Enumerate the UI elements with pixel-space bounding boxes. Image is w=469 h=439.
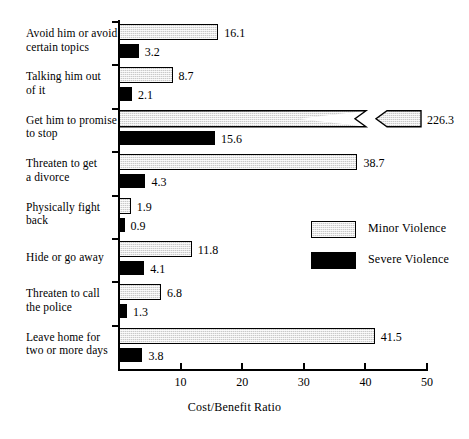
category-label-line: Hide or go away bbox=[26, 251, 118, 265]
bar-minor-violence bbox=[119, 198, 131, 214]
bar-minor-violence bbox=[119, 284, 161, 300]
category-label-line: the police bbox=[26, 301, 118, 315]
bar-value-label-severe-violence: 4.1 bbox=[150, 262, 165, 277]
category-label: Hide or go away bbox=[26, 251, 118, 265]
category-label-line: two or more days bbox=[26, 344, 118, 358]
bar-severe-violence bbox=[119, 304, 127, 318]
bar-value-label-minor-violence: 38.7 bbox=[363, 156, 384, 171]
x-axis-line bbox=[118, 369, 428, 371]
bar-value-label-minor-violence: 226.3 bbox=[427, 113, 454, 128]
category-label: Physically fightback bbox=[26, 201, 118, 228]
bar-value-label-severe-violence: 1.3 bbox=[133, 305, 148, 320]
category-label: Threaten to geta divorce bbox=[26, 157, 118, 184]
bar-severe-violence bbox=[119, 348, 142, 362]
y-axis-line bbox=[118, 20, 120, 370]
legend-label-minor-violence: Minor Violence bbox=[368, 221, 446, 236]
category-label-line: a divorce bbox=[26, 171, 118, 185]
cost-benefit-ratio-bar-chart: 1020304050Avoid him or avoidcertain topi… bbox=[0, 0, 469, 439]
minor-violence-swatch bbox=[311, 221, 356, 238]
bar-value-label-severe-violence: 3.8 bbox=[148, 349, 163, 364]
bar-value-label-minor-violence: 11.8 bbox=[198, 243, 219, 258]
bar-minor-violence bbox=[119, 154, 357, 170]
category-label-line: Physically fight bbox=[26, 201, 118, 215]
bar-value-label-minor-violence: 1.9 bbox=[137, 200, 152, 215]
category-label-line: Threaten to get bbox=[26, 157, 118, 171]
bar-minor-violence bbox=[119, 241, 192, 257]
bar-severe-violence bbox=[119, 261, 144, 275]
bar-severe-violence bbox=[119, 174, 145, 188]
x-axis-title: Cost/Benefit Ratio bbox=[0, 400, 469, 415]
severe-violence-swatch bbox=[311, 252, 356, 269]
category-label-line: Leave home for bbox=[26, 331, 118, 345]
bar-value-label-severe-violence: 0.9 bbox=[131, 219, 146, 234]
bar-minor-violence bbox=[119, 328, 375, 344]
bar-severe-violence bbox=[119, 131, 215, 145]
category-label-line: back bbox=[26, 214, 118, 228]
bar-value-label-severe-violence: 4.3 bbox=[151, 175, 166, 190]
bar-value-label-severe-violence: 15.6 bbox=[221, 132, 242, 147]
bar-value-label-minor-violence: 41.5 bbox=[381, 330, 402, 345]
bar-value-label-minor-violence: 6.8 bbox=[167, 286, 182, 301]
category-label: Threaten to callthe police bbox=[26, 287, 118, 314]
category-label-line: Threaten to call bbox=[26, 287, 118, 301]
legend-label-severe-violence: Severe Violence bbox=[368, 252, 449, 267]
category-label: Leave home fortwo or more days bbox=[26, 331, 118, 358]
